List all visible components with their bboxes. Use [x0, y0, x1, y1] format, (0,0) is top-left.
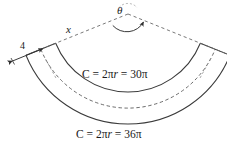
outer-circumference-label: C = 2πr = 36π: [76, 128, 142, 140]
geometry-figure: θ x 4 C = 2πr = 30π C = 2πr = 36π: [0, 0, 227, 151]
outer-arc: [26, 55, 227, 124]
width-dimension-tick-left: [11, 58, 15, 65]
width-label-4: 4: [20, 40, 25, 51]
radius-line-right-dashed: [128, 14, 227, 55]
outer-circumference-prefix: C = 2π: [76, 128, 107, 140]
outer-circumference-value: = 36π: [112, 128, 142, 140]
right-inner-dashed-mark: [200, 59, 211, 79]
inner-circumference-label: C = 2πr = 30π: [82, 68, 148, 80]
inner-circumference-value: = 30π: [118, 68, 148, 80]
angle-label-theta: θ: [117, 4, 122, 16]
inner-circumference-prefix: C = 2π: [82, 68, 113, 80]
radius-label-x: x: [66, 23, 71, 35]
theta-angle-arc: [113, 22, 144, 32]
